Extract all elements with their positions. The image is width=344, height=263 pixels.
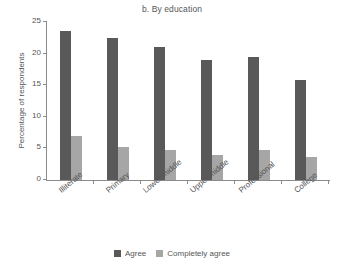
bar-group <box>47 22 94 180</box>
y-axis-tick-label: 10 <box>32 111 41 120</box>
y-axis-tick-label: 5 <box>37 142 41 151</box>
y-axis-tick-label: 15 <box>32 79 41 88</box>
bar-pair <box>141 22 188 180</box>
bar-pair <box>282 22 329 180</box>
bar-pair <box>94 22 141 180</box>
legend-label: Completely agree <box>167 249 230 258</box>
y-axis-tick-label: 20 <box>32 48 41 57</box>
bar-groups <box>47 22 329 180</box>
bar-agree[interactable] <box>295 80 306 180</box>
y-axis-title: Percentage of respondents <box>17 26 26 176</box>
bar-group <box>141 22 188 180</box>
bar-pair <box>188 22 235 180</box>
bar-group <box>235 22 282 180</box>
plot-area: 0510152025 <box>47 22 329 180</box>
legend-swatch-icon <box>114 250 121 257</box>
chart-legend: AgreeCompletely agree <box>0 249 344 258</box>
bar-pair <box>235 22 282 180</box>
y-axis-tick-label: 0 <box>37 174 41 183</box>
bar-agree[interactable] <box>248 57 259 180</box>
x-axis-category-labels: IlliteratePrimaryLower middleUpper middl… <box>47 184 329 236</box>
bar-agree[interactable] <box>201 60 212 180</box>
legend-label: Agree <box>125 249 146 258</box>
bar-agree[interactable] <box>60 31 71 180</box>
chart-title: b. By education <box>0 4 344 14</box>
bar-pair <box>47 22 94 180</box>
x-axis-category-cell: Lower middle <box>141 184 188 236</box>
x-axis-line <box>46 180 330 181</box>
bar-chart: b. By education Percentage of respondent… <box>0 0 344 263</box>
bar-group <box>282 22 329 180</box>
legend-swatch-icon <box>156 250 163 257</box>
bar-group <box>188 22 235 180</box>
legend-item[interactable]: Agree <box>114 249 146 258</box>
x-axis-category-cell: Primary <box>94 184 141 236</box>
bar-agree[interactable] <box>107 38 118 180</box>
y-axis-tick-label: 25 <box>32 16 41 25</box>
x-axis-category-cell: College <box>282 184 329 236</box>
bar-group <box>94 22 141 180</box>
x-axis-category-cell: Professional <box>235 184 282 236</box>
x-axis-category-cell: Upper middle <box>188 184 235 236</box>
legend-item[interactable]: Completely agree <box>156 249 230 258</box>
bar-agree[interactable] <box>154 47 165 180</box>
x-axis-category-cell: Illiterate <box>47 184 94 236</box>
